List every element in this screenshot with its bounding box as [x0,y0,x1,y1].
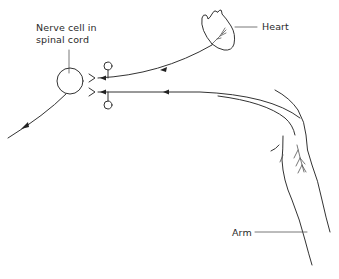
ganglion-upper-circle [104,62,112,70]
efferent-arrow-icon [21,122,29,129]
nerve-cell-label-line1: Nerve cell in [36,22,97,34]
heart-icon [202,10,235,50]
arm-afferent-line [98,92,300,118]
arm-afferent-arrow-icon-near [100,90,106,95]
arm-label: Arm [232,227,252,239]
heart-label: Heart [262,21,289,33]
heart-afferent-arrow-icon-near [100,76,106,81]
referred-pain-diagram: Nerve cell in spinal cord Heart Arm [0,0,339,279]
synapse-upper-fork [89,74,95,82]
heart-afferent-arrow-icon-mid [160,67,167,72]
nerve-cell-label-line2: spinal cord [36,34,97,46]
efferent-axon-line [8,94,66,138]
arm-afferent-arrow-icon-mid [163,90,169,95]
heart-afferent-line [98,45,212,78]
nerve-cell-circle [57,68,83,94]
nerve-cell-label: Nerve cell in spinal cord [36,22,97,46]
synapse-lower-fork [89,88,95,96]
ganglion-lower-circle [104,101,112,109]
